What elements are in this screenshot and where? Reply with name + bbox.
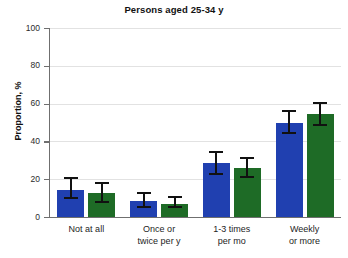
- error-bar: [234, 157, 261, 178]
- error-bar-cap-upper: [168, 196, 182, 198]
- y-tick-mark: [44, 217, 50, 218]
- error-bar: [88, 182, 115, 203]
- error-bar-stem: [215, 151, 217, 176]
- error-bar-stem: [319, 102, 321, 127]
- y-tick-label: 20: [0, 174, 40, 184]
- y-tick-mark: [44, 141, 50, 142]
- error-bar-cap-upper: [95, 182, 109, 184]
- error-bar-cap-upper: [313, 102, 327, 104]
- y-tick-label: 80: [0, 60, 40, 70]
- error-bar: [276, 110, 303, 134]
- bar: [307, 114, 334, 217]
- x-tick-label: Weekly or more: [268, 224, 341, 247]
- error-bar-cap-lower: [168, 206, 182, 208]
- y-tick-mark: [44, 104, 50, 105]
- error-bar-stem: [246, 157, 248, 178]
- gridline: [50, 104, 341, 105]
- error-bar-cap-upper: [137, 192, 151, 194]
- error-bar-cap-lower: [313, 124, 327, 126]
- y-tick-label: 0: [0, 212, 40, 222]
- gridline: [50, 28, 341, 29]
- y-tick-mark: [44, 179, 50, 180]
- x-tick-label: Not at all: [50, 224, 123, 236]
- x-tick-label: 1-3 times per mo: [196, 224, 269, 247]
- error-bar-stem: [70, 177, 72, 199]
- error-bar-cap-upper: [209, 151, 223, 153]
- y-tick-label: 40: [0, 136, 40, 146]
- error-bar-cap-lower: [240, 176, 254, 178]
- error-bar-cap-lower: [64, 197, 78, 199]
- gridline: [50, 66, 341, 67]
- error-bar-stem: [101, 182, 103, 203]
- error-bar: [203, 151, 230, 176]
- error-bar-cap-lower: [95, 201, 109, 203]
- y-tick-mark: [44, 28, 50, 29]
- y-axis-label: Proportion, %: [13, 56, 23, 166]
- error-bar-cap-lower: [137, 206, 151, 208]
- error-bar-cap-lower: [209, 173, 223, 175]
- bar: [276, 123, 303, 218]
- y-tick-label: 100: [0, 23, 40, 33]
- bar-chart: Persons aged 25-34 y Proportion, % 02040…: [0, 0, 348, 258]
- error-bar: [307, 102, 334, 127]
- error-bar: [57, 177, 84, 199]
- error-bar-cap-upper: [64, 177, 78, 179]
- error-bar-cap-upper: [240, 157, 254, 159]
- y-tick-label: 60: [0, 98, 40, 108]
- error-bar-cap-lower: [282, 132, 296, 134]
- error-bar: [161, 196, 188, 208]
- y-tick-mark: [44, 66, 50, 67]
- chart-title: Persons aged 25-34 y: [0, 4, 348, 15]
- error-bar-cap-upper: [282, 110, 296, 112]
- error-bar: [130, 192, 157, 207]
- error-bar-stem: [288, 110, 290, 134]
- x-tick-label: Once or twice per y: [123, 224, 196, 247]
- plot-area: [50, 28, 341, 217]
